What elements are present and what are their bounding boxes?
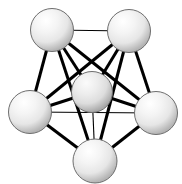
graph-node[interactable] <box>9 91 52 134</box>
network-graph-figure <box>0 0 182 184</box>
graph-node[interactable] <box>31 9 74 52</box>
graph-node[interactable] <box>73 139 117 183</box>
graph-node[interactable] <box>72 72 113 113</box>
graph-node[interactable] <box>135 92 178 135</box>
network-graph-canvas <box>0 0 182 184</box>
graph-node[interactable] <box>108 10 151 53</box>
node-layer <box>9 9 178 184</box>
